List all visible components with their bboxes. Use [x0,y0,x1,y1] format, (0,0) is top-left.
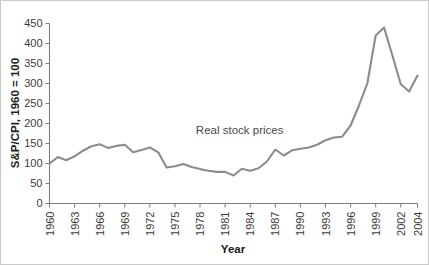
y-tick-label: 350 [24,57,42,69]
series-annotation-group: Real stock prices [196,124,284,136]
x-tick-label: 2002 [395,212,407,236]
x-tick-label: 1984 [244,212,256,236]
line-chart: 050100150200250300350400450 196019631966… [1,1,429,265]
chart-annotation: Real stock prices [196,124,284,136]
x-tick-label: 1987 [269,212,281,236]
x-tick-label: 1978 [194,212,206,236]
y-tick-label: 400 [24,37,42,49]
y-tick-label: 300 [24,77,42,89]
y-tick-label: 0 [36,197,42,209]
x-tick-label: 1999 [370,212,382,236]
x-axis-title: Year [221,243,246,255]
series-real-stock-prices [50,28,418,176]
chart-figure: 050100150200250300350400450 196019631966… [0,0,429,265]
x-tick-label: 1993 [320,212,332,236]
x-tick-label: 1996 [345,212,357,236]
x-axis: 1960196319661969197219751978198119841987… [44,204,424,236]
y-axis-title: S&P/CPI, 1960 = 100 [9,58,21,168]
y-tick-label: 150 [24,137,42,149]
x-tick-label: 1990 [294,212,306,236]
y-tick-label: 250 [24,97,42,109]
data-line-real-stock-prices [50,28,418,176]
y-axis: 050100150200250300350400450 [24,17,49,209]
x-tick-label: 1963 [69,212,81,236]
x-tick-label: 1981 [219,212,231,236]
x-tick-label: 1972 [144,212,156,236]
x-tick-label: 2004 [412,212,424,236]
y-tick-label: 200 [24,117,42,129]
x-tick-label: 1960 [44,212,56,236]
x-tick-label: 1975 [169,212,181,236]
x-tick-label: 1969 [119,212,131,236]
y-tick-label: 100 [24,157,42,169]
y-tick-label: 50 [30,177,42,189]
y-tick-label: 450 [24,17,42,29]
x-tick-label: 1966 [94,212,106,236]
